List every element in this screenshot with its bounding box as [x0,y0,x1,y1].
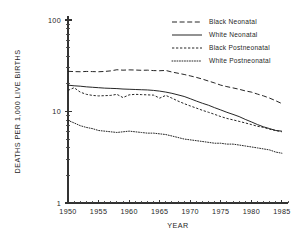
y-axis-title: DEATHS PER 1,000 LIVE BIRTHS [13,50,22,174]
x-axis-title: YEAR [167,221,188,230]
chart-canvas: 10010119501955196019651970197519801985YE… [0,0,306,239]
y-tick-label: 10 [52,107,61,116]
x-tick-label: 1955 [90,207,107,216]
y-tick-label: 100 [48,16,61,25]
x-tick-label: 1970 [182,207,199,216]
x-tick-label: 1975 [212,207,229,216]
legend-label-white-neonatal: White Neonatal [209,31,258,38]
x-tick-label: 1965 [151,207,168,216]
x-tick-label: 1985 [273,207,290,216]
series-line-black-neonatal [68,70,282,104]
series-line-white-postneonatal [68,120,282,153]
infant-mortality-chart-figure: 10010119501955196019651970197519801985YE… [0,0,306,239]
x-tick-label: 1960 [120,207,137,216]
x-tick-label: 1980 [243,207,260,216]
x-tick-label: 1950 [59,207,76,216]
legend-label-black-postneonatal: Black Postneonatal [209,44,270,51]
legend-label-white-postneonatal: White Postneonatal [209,57,271,64]
legend-label-black-neonatal: Black Neonatal [209,18,257,25]
